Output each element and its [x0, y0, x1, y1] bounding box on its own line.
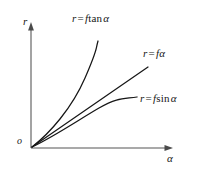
- annotation-f-alpha: r=fα: [143, 47, 165, 59]
- figure-container: r=ftan α r=fα r=fsin α r α o: [0, 0, 207, 175]
- annotation-linear-equals: =: [147, 47, 155, 59]
- annotation-sin-fn: sin: [156, 92, 169, 104]
- curve-f-alpha: [32, 67, 148, 147]
- annotation-f-tan-alpha: r=ftan α: [72, 12, 109, 24]
- annotation-f-sin-alpha: r=fsin α: [140, 92, 177, 104]
- origin-label: o: [17, 135, 22, 146]
- plot-canvas: [0, 0, 207, 175]
- curve-f-tan-alpha: [32, 41, 98, 147]
- annotation-sin-arg: α: [171, 92, 177, 104]
- annotation-linear-arg: α: [159, 47, 165, 59]
- annotation-tan-equals: =: [76, 12, 84, 24]
- y-axis-arrowhead: [28, 22, 34, 31]
- annotation-tan-arg: α: [103, 12, 109, 24]
- annotation-tan-fn: tan: [88, 12, 102, 24]
- curve-f-sin-alpha: [32, 97, 137, 147]
- x-axis-label: α: [167, 152, 173, 164]
- annotation-sin-equals: =: [144, 92, 152, 104]
- x-axis-arrowhead: [165, 145, 174, 151]
- y-axis-label: r: [23, 15, 27, 27]
